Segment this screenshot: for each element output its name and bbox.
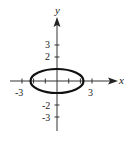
x-axis-label: x — [118, 74, 124, 86]
y-axis-label: y — [54, 4, 60, 16]
x-tick-label-neg3: -3 — [15, 87, 23, 98]
y-tick-label-neg3: -3 — [42, 112, 50, 123]
y-tick-label-neg2: -2 — [42, 100, 50, 111]
x-tick-label-3: 3 — [88, 87, 93, 98]
ellipse-plot: y x -3 3 3 2 -2 -3 — [0, 0, 133, 141]
y-tick-label-3: 3 — [45, 39, 50, 50]
y-tick-label-2: 2 — [45, 51, 50, 62]
